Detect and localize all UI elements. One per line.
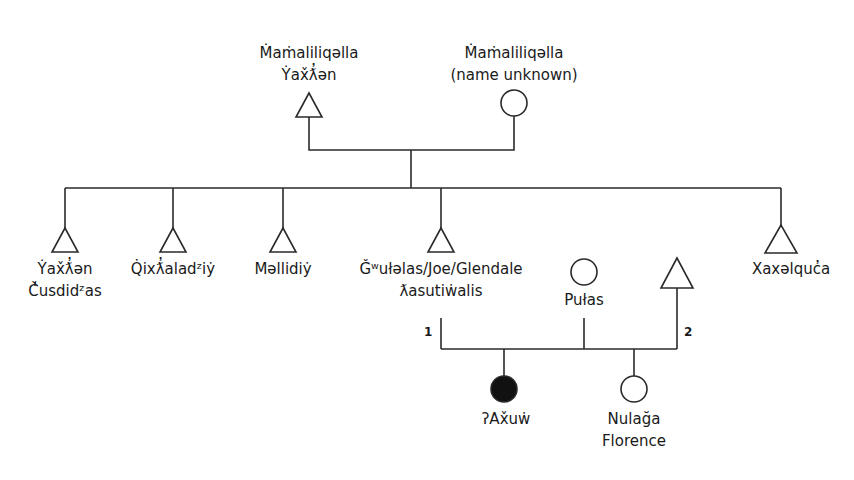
sibling-4-name-2: ƛasutiẇalis xyxy=(359,280,522,302)
sibling-5-name: Xaxəlquc̓a xyxy=(752,258,830,280)
sibling-5-triangle-icon xyxy=(765,225,797,253)
father-name-2: Ẏax̌ƛ̓ən xyxy=(260,64,359,86)
mother-name-2: (name unknown) xyxy=(450,64,577,86)
daughter-circle-icon xyxy=(621,376,647,402)
father-name-1: Ṁaṁaliliqəlla xyxy=(260,42,359,64)
spouse-name: Pułas xyxy=(564,289,604,311)
sibling-5-label: Xaxəlquc̓a xyxy=(752,258,830,280)
sibling-1-label: Ẏax̌ƛ̓ən Č̓usdidᶻas xyxy=(28,258,102,302)
second-husband-triangle-icon xyxy=(661,258,693,288)
sibling-1-name-2: Č̓usdidᶻas xyxy=(28,280,102,302)
sibling-1-triangle-icon xyxy=(52,228,78,252)
sibling-2-name: Q̇ixƛ̓aladᶻiẏ xyxy=(131,258,215,280)
sibling-3-label: Məllidiẏ xyxy=(254,258,311,280)
daughter-name-1: Nulağa xyxy=(602,408,666,430)
mother-label: Ṁaṁaliliqəlla (name unknown) xyxy=(450,42,577,86)
ego-filled-circle-icon xyxy=(491,376,517,402)
sibling-4-name-1: Ǧʷułəlas/Joe/Glendale xyxy=(359,258,522,280)
sibling-4-triangle-icon xyxy=(428,228,454,252)
marriage-number-1: 1 xyxy=(424,325,432,339)
kinship-lines xyxy=(0,0,854,480)
mother-name-1: Ṁaṁaliliqəlla xyxy=(450,42,577,64)
mother-circle-icon xyxy=(501,90,527,116)
sibling-4-label: Ǧʷułəlas/Joe/Glendale ƛasutiẇalis xyxy=(359,258,522,302)
daughter-name-2: Florence xyxy=(602,430,666,452)
daughter-label: Nulağa Florence xyxy=(602,408,666,452)
spouse-label: Pułas xyxy=(564,289,604,311)
spouse-circle-icon xyxy=(571,259,597,285)
sibling-3-name: Məllidiẏ xyxy=(254,258,311,280)
marriage-number-2: 2 xyxy=(684,325,692,339)
sibling-1-name-1: Ẏax̌ƛ̓ən xyxy=(28,258,102,280)
sibling-2-triangle-icon xyxy=(160,228,186,252)
sibling-3-triangle-icon xyxy=(270,228,296,252)
sibling-2-label: Q̇ixƛ̓aladᶻiẏ xyxy=(131,258,215,280)
father-triangle-icon xyxy=(296,93,322,117)
ego-label: ʔAx̌uẇ xyxy=(482,408,531,430)
ego-name: ʔAx̌uẇ xyxy=(482,408,531,430)
father-label: Ṁaṁaliliqəlla Ẏax̌ƛ̓ən xyxy=(260,42,359,86)
